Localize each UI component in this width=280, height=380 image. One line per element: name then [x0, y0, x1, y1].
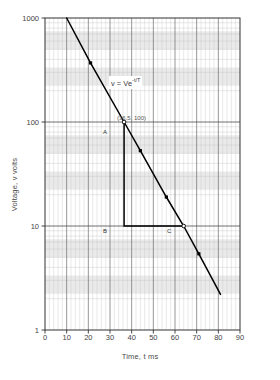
x-tick-label: 60	[171, 333, 179, 342]
point-a-label: A	[103, 129, 107, 135]
data-point-marker	[89, 61, 92, 64]
y-axis-tick-marks	[42, 18, 46, 330]
point-c-label: C	[167, 228, 171, 234]
y-tick-label: 1000	[3, 14, 39, 23]
y-tick-label: 10	[3, 222, 39, 231]
equation-exponent: -t/T	[132, 77, 140, 83]
y-tick-label: 1	[3, 326, 39, 335]
data-point-marker	[139, 149, 142, 152]
x-axis-tick-marks	[45, 330, 240, 334]
point-b-label: B	[103, 228, 107, 234]
data-point-marker	[197, 252, 200, 255]
x-tick-label: 0	[43, 333, 47, 342]
data-point-marker	[165, 195, 168, 198]
triangle-vertex-dot	[182, 224, 186, 228]
equation-base: v = Ve	[111, 79, 132, 88]
x-axis-title: Time, t ms	[0, 352, 280, 361]
equation-annotation: v = Ve-t/T	[109, 76, 142, 89]
x-tick-label: 10	[62, 333, 70, 342]
x-tick-label: 80	[214, 333, 222, 342]
x-tick-label: 30	[106, 333, 114, 342]
coordinate-annotation: (36.5, 100)	[117, 115, 146, 121]
semilog-plot-canvas	[0, 0, 280, 380]
x-tick-label: 20	[84, 333, 92, 342]
x-tick-label: 50	[149, 333, 157, 342]
x-tick-label: 40	[127, 333, 135, 342]
y-tick-label: 100	[3, 118, 39, 127]
x-tick-label: 70	[192, 333, 200, 342]
chart-figure: Time, t ms Voltage, v volts 010203040506…	[0, 0, 280, 380]
x-tick-label: 90	[236, 333, 244, 342]
